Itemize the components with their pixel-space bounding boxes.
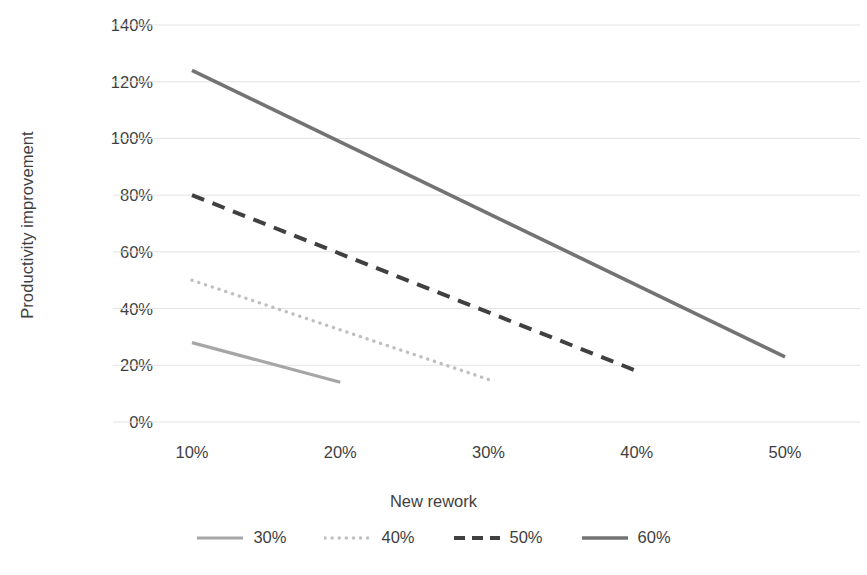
legend-item-50[interactable]: 50%	[453, 528, 543, 547]
chart-legend: 30%40%50%60%	[0, 528, 867, 547]
line-chart: Productivity improvement 0%20%40%60%80%1…	[0, 0, 867, 575]
legend-item-60[interactable]: 60%	[581, 528, 671, 547]
legend-label: 50%	[510, 528, 543, 547]
x-axis-tick-label: 30%	[429, 443, 549, 462]
x-axis-tick-label: 10%	[132, 443, 252, 462]
x-axis-tick-label: 40%	[577, 443, 697, 462]
legend-swatch-line-icon	[581, 531, 629, 545]
series-line-30	[192, 343, 340, 383]
legend-item-40[interactable]: 40%	[324, 528, 414, 547]
legend-swatch-line-icon	[324, 531, 372, 545]
x-axis-tick-label: 50%	[725, 443, 845, 462]
legend-label: 40%	[381, 528, 414, 547]
legend-swatch-line-icon	[453, 531, 501, 545]
legend-label: 60%	[638, 528, 671, 547]
series-line-50	[192, 195, 637, 371]
legend-swatch-line-icon	[196, 531, 244, 545]
legend-item-30[interactable]: 30%	[196, 528, 286, 547]
plot-area	[0, 0, 867, 575]
legend-label: 30%	[253, 528, 286, 547]
x-axis-title: New rework	[0, 492, 867, 511]
x-axis-tick-label: 20%	[280, 443, 400, 462]
